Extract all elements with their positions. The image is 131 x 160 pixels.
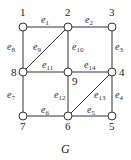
node-label-4: 4 [119,66,125,78]
node-label-1: 1 [20,6,26,18]
node-7 [19,112,27,120]
edge-label-e1: e1 [41,14,49,27]
node-label-8: 8 [11,66,17,78]
node-2 [64,23,72,31]
node-1 [19,23,27,31]
edge-label-e10: e10 [72,41,84,54]
edge-label-e7: e7 [7,89,15,102]
edge-label-e13: e13 [94,89,106,102]
node-5 [108,112,116,120]
node-label-5: 5 [109,120,115,132]
graph-diagram: e1e2e3e4e5e6e7e8e9e10e11e12e13e141234567… [0,0,131,160]
node-label-6: 6 [65,120,71,132]
node-label-2: 2 [65,6,71,18]
edge-label-e9: e9 [33,41,41,54]
node-8 [19,68,27,76]
node-label-9: 9 [72,75,78,87]
node-3 [108,23,116,31]
node-9 [64,68,72,76]
edge-label-e5: e5 [87,104,95,117]
edge-label-e4: e4 [115,89,123,102]
node-label-7: 7 [20,120,26,132]
edge-label-e11: e11 [42,59,54,72]
edge-label-e12: e12 [54,89,66,102]
node-label-3: 3 [109,6,115,18]
edge-label-e14: e14 [84,59,96,72]
edge-label-e6: e6 [41,104,49,117]
node-6 [64,112,72,120]
edge-label-e2: e2 [85,14,93,27]
graph-caption: G [61,142,70,156]
node-4 [108,68,116,76]
edge-label-e3: e3 [115,41,123,54]
edge-label-e8: e8 [7,41,15,54]
